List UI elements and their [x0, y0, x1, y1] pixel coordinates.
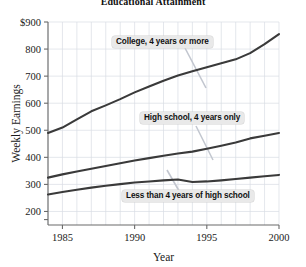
x-tick-label: 2000 — [269, 232, 290, 243]
y-tick-label: 800 — [25, 44, 41, 55]
y-tick-label: 200 — [25, 206, 41, 217]
y-tick-label: 700 — [25, 71, 41, 82]
x-tick-label: 1990 — [124, 232, 145, 243]
y-tick-label: 500 — [25, 125, 41, 136]
y-tick-label: 400 — [25, 152, 41, 163]
y-tick-label: $900 — [20, 17, 41, 28]
x-axis-title: Year — [153, 251, 174, 263]
chart-figure: Educational Attainment $9008007006005004… — [0, 0, 306, 267]
series-label-college: College, 4 years or more — [112, 36, 213, 48]
series-label-high-school: High school, 4 years only — [140, 112, 244, 124]
y-tick-label: 300 — [25, 179, 41, 190]
x-tick-label: 1985 — [52, 232, 73, 243]
annotation-leader — [196, 126, 213, 160]
series-label-less-than-high-school: Less than 4 years of high school — [122, 190, 254, 202]
x-tick-label: 1995 — [196, 232, 217, 243]
y-tick-label: 600 — [25, 98, 41, 109]
y-axis-title: Weekly Earnings — [10, 84, 23, 163]
